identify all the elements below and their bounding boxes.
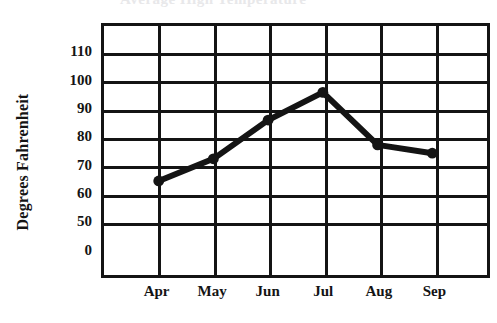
y-axis-tick-label: 90	[77, 100, 92, 117]
y-axis-tick-label: 60	[77, 185, 92, 202]
x-axis-tick-label: Sep	[423, 283, 446, 300]
data-point-marker	[317, 87, 328, 98]
x-axis-tick-label: Aug	[366, 283, 393, 300]
plot-area	[101, 23, 490, 278]
x-axis-tick-label: Jun	[256, 283, 280, 300]
x-axis-tick-label: Apr	[144, 283, 170, 300]
x-axis-tick-label: May	[198, 283, 227, 300]
y-axis-tick-labels: 11010090807060500	[46, 0, 98, 323]
x-axis-tick-label: Jul	[313, 283, 333, 300]
chart-screenshot: Average High Temperature Degrees Fahrenh…	[0, 0, 497, 323]
y-axis-tick-label: 100	[70, 71, 93, 88]
y-axis-tick-label: 0	[85, 241, 93, 258]
data-series-line	[104, 26, 487, 275]
data-point-marker	[208, 153, 219, 164]
data-point-marker	[153, 176, 164, 187]
clipped-chart-title-text: Average High Temperature	[120, 0, 306, 8]
data-point-marker	[263, 115, 274, 126]
y-axis-title-text: Degrees Fahrenheit	[14, 93, 32, 230]
data-point-marker	[372, 140, 383, 151]
x-axis-tick-labels: AprMayJunJulAugSep	[101, 283, 490, 313]
y-axis-tick-label: 110	[70, 43, 92, 60]
y-axis-tick-label: 50	[77, 213, 92, 230]
y-axis-title: Degrees Fahrenheit	[0, 0, 46, 323]
data-point-marker	[427, 148, 438, 159]
y-axis-tick-label: 80	[77, 128, 92, 145]
y-axis-tick-label: 70	[77, 156, 92, 173]
